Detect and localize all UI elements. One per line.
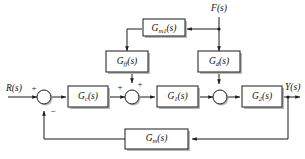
svg-text:Gm(s): Gm(s) xyxy=(146,133,168,144)
summing-junction-1[interactable] xyxy=(37,90,53,106)
block-gc-label-tail: (s) xyxy=(88,91,98,102)
svg-text:G1(s): G1(s) xyxy=(167,91,187,102)
block-g1-label-tail: (s) xyxy=(178,91,188,102)
block-g2-label-tail: (s) xyxy=(262,91,272,102)
block-gff[interactable]: Gff(s) xyxy=(106,51,150,74)
block-g1[interactable]: G1(s) xyxy=(157,86,200,109)
summing-junction-3[interactable] xyxy=(213,90,229,106)
svg-text:Gff(s): Gff(s) xyxy=(117,56,138,67)
junction-dot-disturbance xyxy=(217,27,220,30)
block-gm1[interactable]: Gm1(s) xyxy=(143,19,187,38)
svg-text:Gd(s): Gd(s) xyxy=(209,56,229,67)
label-disturbance-signal: F(s) xyxy=(210,3,227,14)
block-gc[interactable]: Gc(s) xyxy=(68,86,110,109)
block-gm-label-tail: (s) xyxy=(157,133,167,144)
sign-sum2-top: + xyxy=(137,79,142,89)
block-diagram-canvas: Gm1(s) Gff(s) Gd(s) Gc(s) xyxy=(0,0,305,159)
wire-gff-to-sum2 xyxy=(127,73,132,83)
svg-text:G2(s): G2(s) xyxy=(252,91,272,102)
junction-dot-output xyxy=(286,95,289,98)
label-output-signal: Y(s) xyxy=(285,82,300,93)
summing-junction-2[interactable] xyxy=(125,90,141,106)
block-gm1-label-tail: (s) xyxy=(166,23,176,34)
block-gd[interactable]: Gd(s) xyxy=(198,51,242,74)
block-gm[interactable]: Gm(s) xyxy=(125,129,190,151)
block-g2[interactable]: G2(s) xyxy=(242,86,284,109)
sign-sum1-feedback: − xyxy=(50,106,55,116)
sign-sum1-input: + xyxy=(31,83,36,93)
label-reference-signal: R(s) xyxy=(5,83,22,94)
block-gm1-label-sub: m1 xyxy=(158,26,166,33)
wire-gm1-to-gff xyxy=(127,29,142,51)
sign-sum2-left: + xyxy=(117,82,122,92)
svg-text:Gc(s): Gc(s) xyxy=(78,91,98,102)
block-diagram-svg: Gm1(s) Gff(s) Gd(s) Gc(s) xyxy=(0,0,305,159)
block-gff-label-tail: (s) xyxy=(127,56,137,67)
block-gd-label-tail: (s) xyxy=(219,56,229,67)
